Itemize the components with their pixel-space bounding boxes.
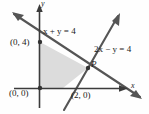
label-y-axis: y [41, 0, 45, 8]
label-vertex-2-0: (2, 0) [71, 91, 91, 100]
line-x-plus-y-equals-4 [14, 14, 140, 97]
vertex-dot-0-4 [38, 40, 42, 44]
geometry-figure: x + y = 4 2x − y = 4 P x y (0, 4) (0, 0)… [0, 0, 149, 114]
label-equation-2x-minus-y: 2x − y = 4 [94, 45, 131, 54]
vertex-dot-origin [38, 86, 42, 90]
label-point-p: P [91, 60, 97, 69]
vertex-dot-p [86, 66, 90, 70]
label-vertex-0-4: (0, 4) [10, 38, 30, 47]
label-vertex-0-0: (0, 0) [9, 89, 29, 98]
label-equation-x-plus-y: x + y = 4 [43, 27, 76, 36]
label-x-axis: x [131, 82, 135, 90]
